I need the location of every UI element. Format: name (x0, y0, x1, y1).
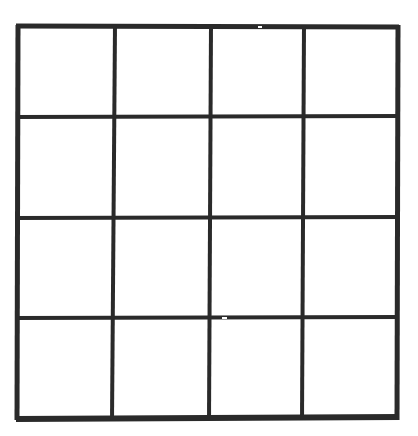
grid-cell-r2-c1[interactable] (17, 116, 115, 218)
grid-cells-group (17, 26, 398, 419)
grid-cell-r1-c1[interactable] (17, 26, 115, 117)
grid-cell-r3-c3[interactable] (209, 217, 304, 318)
diagram-canvas (0, 0, 418, 436)
grid-cell-r2-c2[interactable] (112, 116, 211, 218)
grid-cell-r3-c4[interactable] (302, 217, 398, 318)
grid-diagram (0, 0, 418, 436)
grid-cell-r4-c3[interactable] (209, 317, 304, 419)
grid-cell-r2-c3[interactable] (209, 116, 304, 218)
grid-cell-r4-c4[interactable] (302, 317, 398, 419)
grid-cell-r1-c4[interactable] (302, 26, 398, 117)
grid-cell-r2-c4[interactable] (302, 116, 398, 218)
grid-cell-r4-c1[interactable] (17, 317, 115, 419)
grid-cell-r1-c3[interactable] (209, 26, 304, 117)
grid-cell-r4-c2[interactable] (112, 317, 211, 419)
grid-cell-r3-c2[interactable] (112, 217, 211, 318)
grid-cell-r3-c1[interactable] (17, 217, 115, 318)
grid-cell-r1-c2[interactable] (112, 26, 211, 117)
